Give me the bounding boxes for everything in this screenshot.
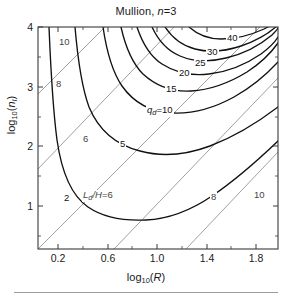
x-axis-label-base: 10 xyxy=(142,276,150,285)
y-tick-label-1: 2 xyxy=(17,140,33,152)
y-tick-label-3: 4 xyxy=(17,21,33,33)
contour-label-qd-5: 5 xyxy=(119,139,126,149)
x-tick-label-3: 1.4 xyxy=(200,252,215,264)
x-axis-label-log: log xyxy=(127,271,142,283)
x-tick-label-2: 1.0 xyxy=(150,252,165,264)
contour-label-qd-15: 15 xyxy=(165,84,178,94)
contour-label-ldh-10-upper: 10 xyxy=(58,37,71,47)
y-tick-label-2: 3 xyxy=(17,81,33,93)
contour-label-qd-30: 30 xyxy=(206,47,219,57)
x-axis-label: log10(R) xyxy=(0,271,292,285)
y-tick-label-0: 1 xyxy=(17,200,33,212)
contour-label-qd-20: 20 xyxy=(178,68,191,78)
y-axis-label-paren-open: ( xyxy=(5,108,17,112)
contour-label-qd-10: qd=10 xyxy=(146,105,174,117)
y-axis-label-variable-sub: I xyxy=(10,99,19,101)
figure-contour-plot: Mullion, n=3 xyxy=(0,0,292,299)
contour-label-ldh-6: 6 xyxy=(82,134,89,144)
x-tick-label-1: 0.6 xyxy=(101,252,116,264)
contour-label-qd-25: 25 xyxy=(194,58,207,68)
x-tick-label-4: 1.8 xyxy=(249,252,264,264)
contour-label-ldh-6-main: Ld/H=6 xyxy=(82,190,114,202)
contour-label-ldh-10: 10 xyxy=(253,190,266,200)
y-axis-label-variable: n xyxy=(5,101,17,107)
x-tick-label-0: 0.2 xyxy=(51,252,66,264)
y-axis-label-log: log xyxy=(5,120,17,135)
x-axis-label-paren-close: ) xyxy=(161,271,165,283)
contour-label-ldh-8-upper: 8 xyxy=(55,79,62,89)
contour-label-qd-2: 2 xyxy=(63,193,70,203)
contour-label-qd-40: 40 xyxy=(226,33,239,43)
footer-divider xyxy=(14,292,278,293)
y-axis-label: log10(nI) xyxy=(5,55,19,175)
y-axis-label-base: 10 xyxy=(10,111,19,119)
y-axis-label-paren-close: ) xyxy=(5,96,17,100)
contour-label-ldh-8: 8 xyxy=(210,192,217,202)
